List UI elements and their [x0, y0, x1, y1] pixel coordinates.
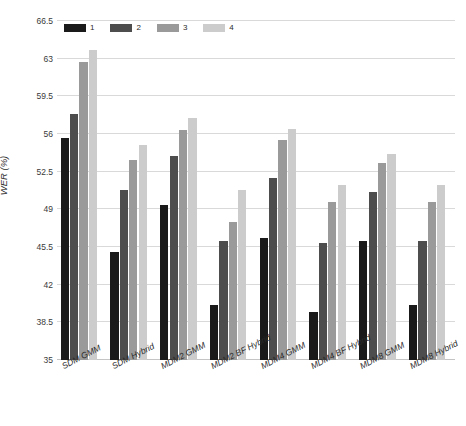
- bar: [229, 222, 237, 360]
- bar: [288, 129, 296, 360]
- bar-group: [206, 21, 256, 360]
- legend-item[interactable]: 2: [110, 23, 140, 32]
- bar: [328, 202, 336, 360]
- y-axis-tick-label: 52.5: [7, 167, 53, 177]
- bar: [387, 154, 395, 360]
- bar: [61, 138, 69, 360]
- chart-legend: 1234: [64, 21, 250, 34]
- bar-group: [306, 21, 356, 360]
- y-axis-tick-label: 45.5: [7, 242, 53, 252]
- bar: [139, 145, 147, 360]
- legend-swatch-icon: [110, 24, 132, 32]
- bar: [89, 50, 97, 360]
- bar: [70, 114, 78, 360]
- y-axis-tick-label: 56: [7, 129, 53, 139]
- bar: [369, 192, 377, 360]
- bar: [110, 252, 118, 360]
- y-axis-tick-label: 59.5: [7, 91, 53, 101]
- bar: [428, 202, 436, 360]
- legend-label: 1: [90, 23, 94, 32]
- bar-group: [256, 21, 306, 360]
- y-axis-tick-label: 63: [7, 54, 53, 64]
- bar: [120, 190, 128, 360]
- legend-label: 3: [183, 23, 187, 32]
- bar: [378, 163, 386, 360]
- legend-item[interactable]: 4: [203, 23, 233, 32]
- bar: [418, 241, 426, 360]
- bar: [188, 118, 196, 360]
- bar: [179, 130, 187, 360]
- y-axis-tick-label: 42: [7, 280, 53, 290]
- bar: [210, 305, 218, 360]
- bar: [309, 312, 317, 360]
- bar: [129, 160, 137, 360]
- bar-group: [57, 21, 107, 360]
- bar: [269, 178, 277, 360]
- y-axis-tick-label: 66.5: [7, 16, 53, 26]
- bar: [278, 140, 286, 360]
- bar-chart: WER (%) 3538.54245.54952.55659.56366.5 S…: [0, 0, 466, 426]
- bar: [160, 205, 168, 360]
- legend-swatch-icon: [64, 24, 86, 32]
- legend-swatch-icon: [203, 24, 225, 32]
- bar-group: [405, 21, 455, 360]
- bar: [79, 62, 87, 360]
- legend-label: 2: [136, 23, 140, 32]
- bar: [409, 305, 417, 360]
- legend-swatch-icon: [157, 24, 179, 32]
- legend-item[interactable]: 3: [157, 23, 187, 32]
- bar-group: [157, 21, 207, 360]
- y-axis-tick-label: 35: [7, 355, 53, 365]
- plot-area: [57, 21, 455, 360]
- y-axis-tick-label: 38.5: [7, 317, 53, 327]
- bar-group: [107, 21, 157, 360]
- bar: [170, 156, 178, 360]
- bar: [437, 185, 445, 360]
- bar: [338, 185, 346, 360]
- y-axis-tick-label: 49: [7, 204, 53, 214]
- x-axis-tick-labels: SDM GMMSDM HybridMDM2 GMMMDM2 BF HybridM…: [57, 362, 455, 426]
- bar: [319, 243, 327, 360]
- y-axis-tick-labels: 3538.54245.54952.55659.56366.5: [5, 21, 53, 360]
- legend-label: 4: [229, 23, 233, 32]
- bar: [238, 190, 246, 360]
- bar-group: [356, 21, 406, 360]
- bar: [219, 241, 227, 360]
- legend-item[interactable]: 1: [64, 23, 94, 32]
